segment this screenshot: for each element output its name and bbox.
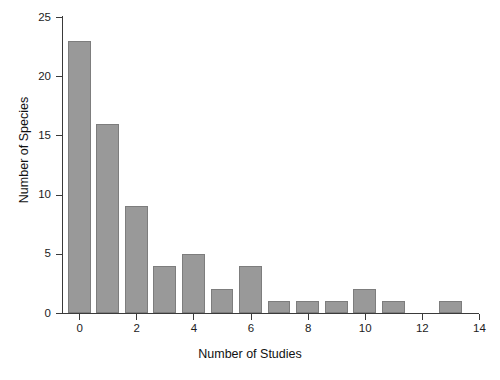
x-axis-tick-label: 0 — [76, 323, 82, 335]
x-axis-tick-label: 2 — [134, 323, 140, 335]
y-axis-tick-label: 15 — [38, 130, 51, 142]
y-axis-tick: 20 — [56, 76, 62, 77]
bar — [325, 301, 348, 313]
bar — [182, 254, 205, 313]
x-axis-tick: 8 — [308, 314, 309, 320]
y-axis-tick-label: 10 — [38, 189, 51, 201]
bar — [211, 289, 234, 313]
x-axis-tick: 12 — [422, 314, 423, 320]
bar-chart: 0510152025 02468101214 Number of Species… — [0, 0, 500, 380]
x-axis-tick: 6 — [251, 314, 252, 320]
bar — [382, 301, 405, 313]
y-axis-tick: 25 — [56, 17, 62, 18]
x-axis-tick-label: 8 — [305, 323, 311, 335]
x-axis-tick: 2 — [136, 314, 137, 320]
x-axis-tick-label: 4 — [191, 323, 197, 335]
bar — [439, 301, 462, 313]
bar — [96, 124, 119, 313]
y-axis-tick-label: 0 — [45, 308, 51, 320]
x-axis-tick-label: 14 — [473, 323, 486, 335]
y-axis-tick: 5 — [56, 254, 62, 255]
x-axis-tick: 14 — [479, 314, 480, 320]
bar — [353, 289, 376, 313]
bar — [239, 266, 262, 313]
y-axis-tick-label: 20 — [38, 71, 51, 83]
x-axis-tick: 4 — [193, 314, 194, 320]
y-axis-title: Number of Species — [17, 40, 31, 260]
bar — [296, 301, 319, 313]
x-axis-tick: 0 — [79, 314, 80, 320]
y-axis-tick-label: 5 — [45, 249, 51, 261]
y-axis-tick: 0 — [56, 313, 62, 314]
x-axis-tick-label: 12 — [416, 323, 429, 335]
bar — [125, 206, 148, 313]
x-axis-tick-label: 6 — [248, 323, 254, 335]
x-axis-line — [62, 313, 479, 314]
bar — [153, 266, 176, 313]
y-axis-tick: 15 — [56, 135, 62, 136]
x-axis-title: Number of Studies — [0, 347, 500, 361]
x-axis-tick: 10 — [365, 314, 366, 320]
y-axis-tick: 10 — [56, 195, 62, 196]
y-axis-tick-label: 25 — [38, 12, 51, 24]
bar — [68, 41, 91, 313]
bar — [268, 301, 291, 313]
plot-area — [62, 17, 479, 313]
x-axis-tick-label: 10 — [359, 323, 372, 335]
